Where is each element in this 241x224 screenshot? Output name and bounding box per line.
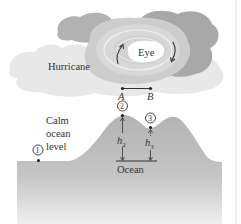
- calm-ocean-level-label-line2: ocean: [46, 128, 71, 139]
- marker-1: 1: [33, 145, 43, 162]
- marker-2: 2: [118, 101, 128, 117]
- hurricane-ocean-diagram: Eye Hurricane A B Calm ocean level 1 2 3…: [0, 0, 241, 224]
- eye-label: Eye: [138, 47, 155, 58]
- calm-ocean-level-label-line1: Calm: [46, 115, 69, 126]
- calm-ocean-level-label-line3: level: [46, 141, 66, 152]
- marker-3: 3: [146, 113, 156, 129]
- hurricane-label: Hurricane: [48, 61, 90, 72]
- svg-text:3: 3: [148, 114, 152, 123]
- svg-text:1: 1: [36, 146, 40, 155]
- point-a-label: A: [117, 91, 125, 102]
- point-b-label: B: [147, 91, 154, 102]
- point-b-dot: [149, 87, 152, 90]
- svg-text:2: 2: [120, 102, 124, 111]
- point-a-dot: [121, 87, 124, 90]
- hurricane-cloud: [9, 11, 223, 97]
- ocean-label: Ocean: [117, 164, 145, 175]
